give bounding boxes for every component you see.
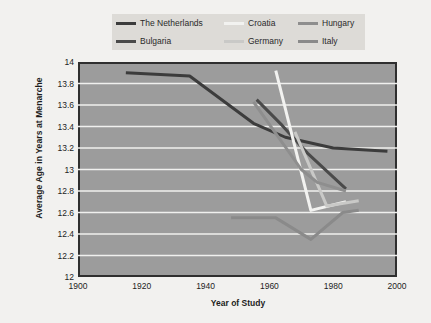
plot-region (78, 62, 397, 277)
legend-label-hungary: Hungary (322, 19, 354, 28)
x-tick-label: 1940 (183, 281, 229, 291)
legend-item-italy: Italy (298, 37, 369, 46)
legend-label-croatia: Croatia (248, 19, 275, 28)
x-tick-label: 1960 (246, 281, 292, 291)
legend-item-bulgaria: Bulgaria (116, 37, 224, 46)
y-tick-label: 12.4 (30, 229, 74, 239)
x-tick-label: 1980 (310, 281, 356, 291)
legend-label-germany: Germany (248, 37, 283, 46)
y-tick-label: 13.2 (30, 143, 74, 153)
y-tick-label: 12.2 (30, 251, 74, 261)
y-tick-label: 13.4 (30, 122, 74, 132)
legend-label-italy: Italy (322, 37, 338, 46)
chart-figure: The Netherlands Croatia Hungary Bulgaria… (0, 0, 431, 323)
legend-item-the-netherlands: The Netherlands (116, 19, 224, 28)
legend-swatch-bulgaria (116, 40, 136, 43)
legend-swatch-the-netherlands (116, 22, 136, 25)
y-tick-label: 12.8 (30, 186, 74, 196)
legend-item-germany: Germany (224, 37, 298, 46)
legend-label-bulgaria: Bulgaria (140, 37, 171, 46)
y-tick-label: 14 (30, 57, 74, 67)
series-line-italy (231, 210, 359, 239)
x-tick-label: 2000 (374, 281, 420, 291)
plot-lines (78, 62, 397, 277)
legend-swatch-italy (298, 40, 318, 43)
legend-swatch-germany (224, 40, 244, 43)
y-tick-label: 13.8 (30, 79, 74, 89)
y-tick-label: 13.6 (30, 100, 74, 110)
chart-legend: The Netherlands Croatia Hungary Bulgaria… (112, 14, 365, 50)
y-tick-label: 13 (30, 165, 74, 175)
legend-label-the-netherlands: The Netherlands (140, 19, 203, 28)
y-tick-label: 12.6 (30, 208, 74, 218)
series-line-the-netherlands (126, 73, 388, 151)
legend-swatch-hungary (298, 22, 318, 25)
x-tick-label: 1920 (119, 281, 165, 291)
legend-item-croatia: Croatia (224, 19, 298, 28)
y-axis-tick-labels: 1413.813.613.413.21312.812.612.412.212 (26, 62, 74, 277)
x-tick-label: 1900 (55, 281, 101, 291)
legend-swatch-croatia (224, 22, 244, 25)
x-axis-title: Year of Study (78, 298, 398, 308)
legend-item-hungary: Hungary (298, 19, 369, 28)
x-axis-tick-labels: 190019201940196019802000 (78, 281, 397, 295)
